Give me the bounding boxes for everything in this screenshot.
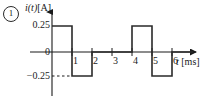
waveform-plot (0, 0, 208, 97)
figure-container: 1 i(t)[A] t [ms] 0.25 0 −0.25 1 2 3 4 5 … (0, 0, 208, 97)
